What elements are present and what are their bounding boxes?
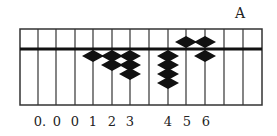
column-label: 4	[164, 115, 172, 128]
lower-bead	[82, 50, 104, 62]
column-label: 5	[183, 115, 191, 128]
lower-bead	[194, 50, 216, 62]
lower-bead	[157, 77, 179, 89]
column-label: 3	[126, 115, 134, 128]
upper-bead	[175, 36, 197, 48]
column-label: 2	[108, 115, 116, 128]
column-label: 1	[89, 115, 97, 128]
upper-bead	[194, 36, 216, 48]
lower-bead	[119, 68, 141, 80]
column-label: 0	[71, 115, 79, 128]
column-label: 0.	[34, 115, 46, 128]
column-label: 0	[53, 115, 61, 128]
column-label: 6	[202, 115, 210, 128]
